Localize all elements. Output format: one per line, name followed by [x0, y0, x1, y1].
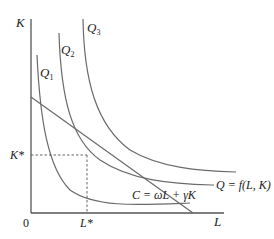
- isoquant-q2-label: Q2: [61, 42, 74, 59]
- isoquant-q1-label: Q1: [40, 65, 53, 82]
- production-function-label: Q = f(L, K): [216, 178, 271, 192]
- y-axis-label: K: [15, 15, 26, 30]
- l-star-label: L*: [79, 216, 93, 230]
- isocost-equation-label: C = ωL + γK: [132, 188, 197, 202]
- k-star-label: K*: [9, 148, 24, 162]
- isoquant-q2-curve: [59, 33, 212, 185]
- isoquant-q3-curve: [83, 19, 236, 172]
- isoquant-diagram: K L 0 Q1 Q2 Q3 K* L* C = ωL + γK Q = f(L…: [0, 0, 274, 239]
- origin-label: 0: [23, 216, 29, 230]
- isoquant-q3-label: Q3: [87, 20, 100, 37]
- x-axis-label: L: [213, 214, 221, 229]
